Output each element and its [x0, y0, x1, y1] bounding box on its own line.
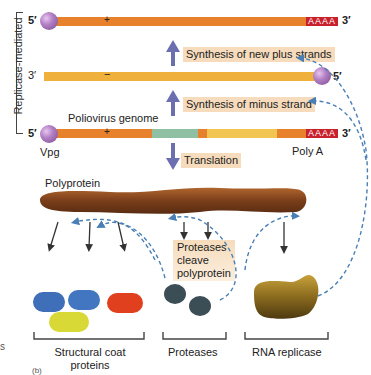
proteases-label: Proteases — [168, 346, 218, 358]
coat-protein-blue-2 — [68, 290, 100, 310]
bracket-replicase — [245, 332, 328, 339]
replicase-shape — [254, 275, 318, 319]
coat-protein-red — [107, 293, 143, 313]
coat-protein-blue-1 — [33, 292, 65, 312]
edge-text-s: s — [0, 341, 5, 352]
structural-proteins-label: Structural coat proteins — [40, 346, 140, 372]
protease-1 — [164, 284, 186, 304]
arrow-down-translation — [166, 143, 180, 170]
arrow-up-plus — [166, 40, 180, 66]
polyprotein-shape — [40, 188, 306, 214]
arrow-up-minus — [166, 90, 180, 116]
coat-protein-yellow — [49, 312, 89, 332]
panel-label: (b) — [32, 366, 42, 375]
bracket-structural — [34, 332, 144, 339]
bracket-proteases — [163, 332, 226, 339]
protease-2 — [189, 296, 211, 316]
replicase-label: RNA replicase — [252, 346, 322, 358]
